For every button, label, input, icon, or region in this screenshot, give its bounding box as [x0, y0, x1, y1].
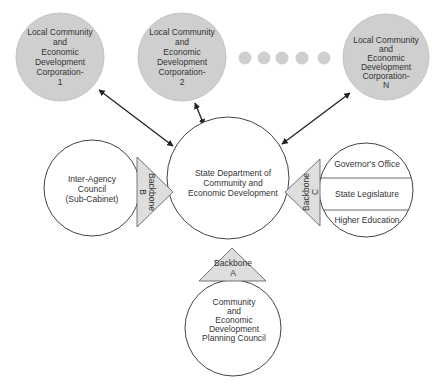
inter-agency-line-2: Council [78, 184, 106, 194]
local-corporation-1: Local Community and Economic Development… [16, 13, 104, 101]
arrow-corp-1-to-center [99, 90, 173, 146]
planning-council-circle: Community and Economic Development Plann… [185, 280, 281, 376]
backbone-c: Backbone C [285, 159, 320, 226]
corp-2-line-6: 2 [180, 77, 185, 87]
inter-agency-line-3: (Sub-Cabinet) [66, 194, 119, 204]
corp-1-line-6: 1 [58, 77, 63, 87]
backbone-b-line-2: B [138, 189, 148, 195]
center-line-2: Community and [203, 178, 263, 188]
corp-1-line-1: Local Community [27, 27, 93, 37]
corp-2-line-3: Economic [163, 47, 201, 57]
inter-agency-line-1: Inter-Agency [68, 174, 117, 184]
local-corporation-n: Local Community and Economic Development… [343, 14, 429, 100]
backbone-c-line-2: C [310, 189, 320, 195]
state-legislature-label: State Legislature [335, 189, 399, 199]
diagram-canvas: Local Community and Economic Development… [0, 0, 443, 387]
corp-2-line-5: Corporation- [158, 67, 205, 77]
backbone-a-line-2: A [230, 268, 236, 278]
corp-2-line-1: Local Community [149, 27, 215, 37]
corp-1-line-2: and [53, 37, 67, 47]
ellipsis-dots [239, 52, 331, 65]
corp-2-line-2: and [175, 37, 189, 47]
corp-1-line-4: Development [35, 57, 86, 67]
higher-education-label: Higher Education [334, 215, 399, 225]
planning-line-5: Planning Council [202, 333, 266, 343]
arrow-corp-n-to-center [282, 93, 350, 144]
local-corporation-2: Local Community and Economic Development… [138, 13, 226, 101]
corp-1-line-3: Economic [41, 47, 79, 57]
backbone-a-line-1: Backbone [214, 258, 252, 268]
governors-office-label: Governor's Office [334, 159, 400, 169]
corp-2-line-4: Development [157, 57, 208, 67]
center-line-1: State Department of [195, 168, 272, 178]
arrow-corp-2-to-center [195, 103, 204, 125]
state-partners-circle: Governor's Office State Legislature High… [310, 143, 420, 237]
corp-n-line-6: N [383, 80, 389, 90]
backbone-a: Backbone A [199, 248, 266, 281]
inter-agency-council-circle: Inter-Agency Council (Sub-Cabinet) [44, 140, 140, 236]
state-department-circle: State Department of Community and Econom… [167, 117, 289, 239]
corp-1-line-5: Corporation- [36, 67, 83, 77]
center-line-3: Economic Development [188, 188, 278, 198]
